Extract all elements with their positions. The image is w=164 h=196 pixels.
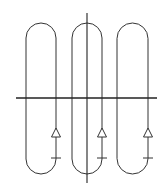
direction-arrow-up-icon <box>144 128 153 137</box>
loops-diagram <box>0 0 164 196</box>
diagram-canvas <box>0 0 164 196</box>
direction-arrow-up-icon <box>98 128 107 137</box>
direction-arrow-up-icon <box>52 128 61 137</box>
